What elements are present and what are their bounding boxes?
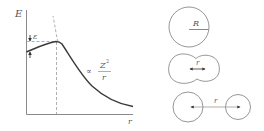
stage-spherical-nucleus: R (169, 7, 209, 47)
coulomb-label: ∝ Z 2 r (86, 58, 111, 82)
proportional-symbol: ∝ (86, 67, 91, 76)
radius-label: R (192, 19, 199, 28)
y-axis-label: E (14, 8, 23, 19)
stage-separated-fragments: r (173, 92, 251, 122)
stage-deformed-nucleus: r (169, 54, 220, 83)
fragment-separation-label: r (214, 97, 218, 105)
nucleus-circle (169, 7, 209, 47)
coulomb-numerator-base: Z (99, 61, 106, 70)
barrier-height-indicator: ε (30, 32, 37, 58)
energy-plot: E r ε ∝ Z 2 r (14, 8, 133, 126)
barrier-epsilon-label: ε (33, 32, 37, 41)
energy-curve (27, 42, 134, 107)
coulomb-numerator-exponent: 2 (106, 58, 109, 64)
coulomb-denominator: r (102, 73, 107, 82)
x-axis-label: r (128, 117, 133, 126)
fission-energy-diagram: E r ε ∝ Z 2 r R r (0, 0, 264, 131)
coulomb-extrapolation-dashed (53, 16, 58, 42)
separation-label: r (196, 59, 200, 67)
